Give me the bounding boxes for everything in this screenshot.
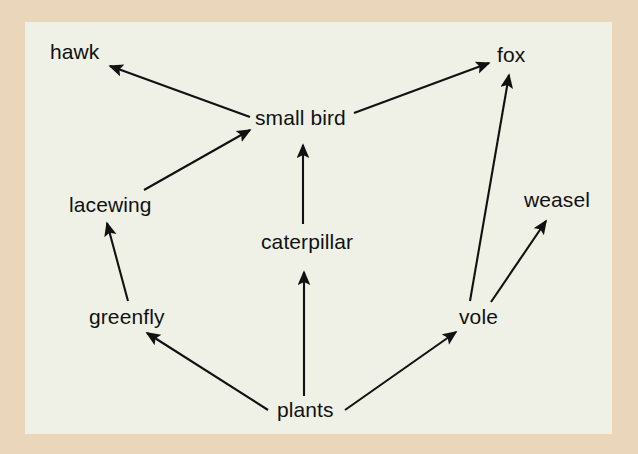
node-fox[interactable]: fox <box>497 44 525 65</box>
node-weasel[interactable]: weasel <box>524 189 590 210</box>
node-small-bird[interactable]: small bird <box>255 107 346 128</box>
node-caterpillar[interactable]: caterpillar <box>261 231 353 252</box>
node-lacewing[interactable]: lacewing <box>69 194 152 215</box>
node-hawk[interactable]: hawk <box>50 41 99 62</box>
node-plants[interactable]: plants <box>277 399 334 420</box>
food-web-figure: hawk fox small bird lacewing weasel cate… <box>0 0 638 454</box>
diagram-panel <box>25 22 612 434</box>
node-greenfly[interactable]: greenfly <box>89 306 165 327</box>
node-vole[interactable]: vole <box>459 306 498 327</box>
